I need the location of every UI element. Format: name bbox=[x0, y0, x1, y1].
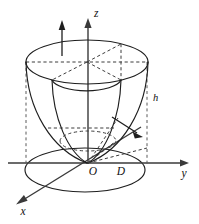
top-ellipse-radius-b bbox=[87, 62, 121, 80]
base-disk-ellipse bbox=[25, 148, 145, 192]
top-ellipse-radius-c bbox=[52, 62, 87, 80]
side-normal-vector-arrowhead bbox=[133, 132, 143, 139]
z-axis-arrowhead bbox=[84, 18, 91, 28]
top-normal-vector-arrowhead bbox=[59, 20, 66, 30]
top-rim-front-arc bbox=[26, 62, 148, 84]
x-axis-arrowhead bbox=[16, 195, 28, 205]
x-axis-label: x bbox=[19, 205, 26, 217]
z-axis-label: z bbox=[93, 7, 99, 19]
top-rim-back-arc bbox=[26, 40, 148, 62]
paraboloid-diagram: z y x O D h bbox=[0, 0, 199, 224]
origin-label: O bbox=[89, 165, 98, 177]
top-ellipse-radius-a bbox=[87, 44, 121, 62]
figure-container: z y x O D h bbox=[0, 0, 199, 224]
region-label: D bbox=[116, 165, 126, 177]
y-axis-arrowhead bbox=[180, 160, 189, 167]
y-axis-label: y bbox=[180, 167, 187, 180]
height-label: h bbox=[153, 92, 158, 103]
